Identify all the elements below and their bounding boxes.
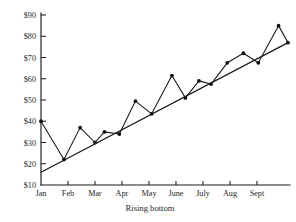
x-tick-label-june: June: [168, 189, 183, 198]
data-point-marker: [209, 82, 213, 86]
y-tick-labels: $90$80$70$60$50$40$30$20$10: [24, 11, 36, 190]
y-tick-label: $70: [24, 54, 36, 63]
data-point-marker: [93, 141, 97, 145]
tick-marks: [41, 15, 257, 185]
data-point-marker: [225, 61, 229, 65]
data-point-marker: [62, 158, 66, 162]
rising-bottom-trendline-path: [41, 43, 288, 173]
data-point-marker: [134, 99, 138, 103]
x-axis-title: Rising bottom: [126, 203, 175, 213]
rising-bottom-chart: $90$80$70$60$50$40$30$20$10 JanFebMarApr…: [0, 0, 296, 222]
y-tick-label: $40: [24, 117, 36, 126]
chart-canvas: $90$80$70$60$50$40$30$20$10 JanFebMarApr…: [0, 0, 296, 222]
data-point-marker: [103, 130, 107, 134]
price-series-line: [41, 26, 288, 160]
axis-lines: [41, 13, 290, 185]
x-tick-label-jan: Jan: [36, 189, 47, 198]
data-point-marker: [242, 51, 246, 55]
x-tick-label-july: July: [196, 189, 211, 198]
y-tick-label: $90: [24, 11, 36, 20]
y-tick-label: $60: [24, 75, 36, 84]
data-point-marker: [277, 24, 281, 28]
data-point-marker: [286, 41, 290, 45]
data-point-marker: [184, 96, 188, 100]
y-tick-label: $80: [24, 32, 36, 41]
data-point-marker: [170, 74, 174, 78]
x-tick-label-feb: Feb: [62, 189, 74, 198]
trendline: [41, 43, 288, 173]
data-point-marker: [78, 126, 82, 130]
y-tick-label: $50: [24, 96, 36, 105]
data-point-marker: [117, 132, 121, 136]
data-point-marker: [150, 112, 154, 116]
data-point-marker: [197, 79, 201, 83]
x-tick-labels: JanFebMarAprMayJuneJulyAugSept: [36, 189, 265, 198]
price-series-path: [41, 26, 288, 160]
data-point-marker: [39, 119, 43, 123]
x-tick-label-mar: Mar: [88, 189, 102, 198]
x-tick-label-sept: Sept: [250, 189, 265, 198]
data-point-marker: [256, 61, 260, 65]
price-series-markers: [39, 24, 290, 162]
y-tick-label: $20: [24, 160, 36, 169]
x-tick-label-aug: Aug: [223, 189, 237, 198]
x-tick-label-apr: Apr: [116, 189, 129, 198]
x-tick-label-may: May: [141, 189, 157, 198]
y-tick-label: $10: [24, 181, 36, 190]
y-tick-label: $30: [24, 139, 36, 148]
